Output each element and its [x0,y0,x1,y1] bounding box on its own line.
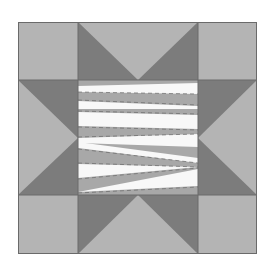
corner-top-right [198,22,257,80]
stripe [78,112,198,129]
corner-top-left [18,22,78,80]
quilt-block [0,0,276,264]
corner-bottom-left [18,195,78,254]
center-square [78,80,198,195]
corner-bottom-right [198,195,257,254]
